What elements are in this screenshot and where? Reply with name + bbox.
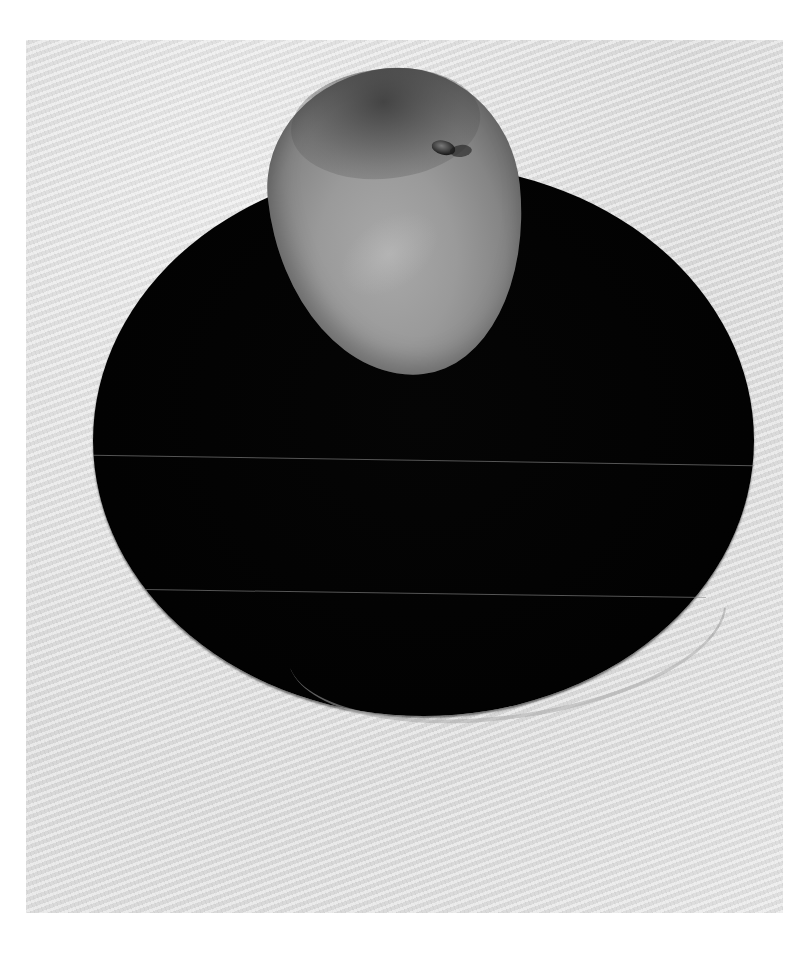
artwork-frame	[26, 40, 783, 913]
peach-stem-shadow	[449, 144, 472, 158]
peach-highlight	[324, 193, 454, 314]
peach-shadow	[285, 59, 485, 188]
